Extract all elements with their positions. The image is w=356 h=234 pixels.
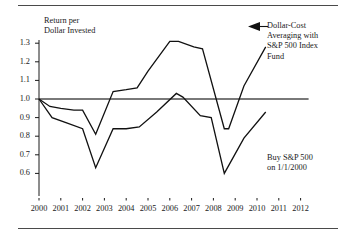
series-line-dollar-cost-averaging: [39, 41, 266, 134]
y-tick-label: 1.2: [8, 57, 30, 66]
axes-group: [35, 40, 301, 201]
x-tick-label: 2012: [288, 204, 314, 213]
y-tick-label: 0.6: [8, 168, 30, 177]
y-axis-ticks: [35, 43, 39, 173]
y-tick-label: 0.9: [8, 113, 30, 122]
dca-arrowhead-icon: [248, 22, 260, 31]
y-tick-label: 0.8: [8, 131, 30, 140]
y-tick-label: 0.7: [8, 150, 30, 159]
chart-plot-area: [0, 0, 356, 234]
series-line-buy-sp500-lumpsum: [39, 93, 266, 173]
dca-callout-leader: [248, 22, 268, 31]
y-tick-label: 1.1: [8, 75, 30, 84]
y-tick-label: 1.0: [8, 94, 30, 103]
x-axis-ticks: [39, 198, 301, 201]
figure-container: Return per Dollar Invested Dollar-Cost A…: [0, 0, 356, 234]
y-tick-label: 1.3: [8, 38, 30, 47]
